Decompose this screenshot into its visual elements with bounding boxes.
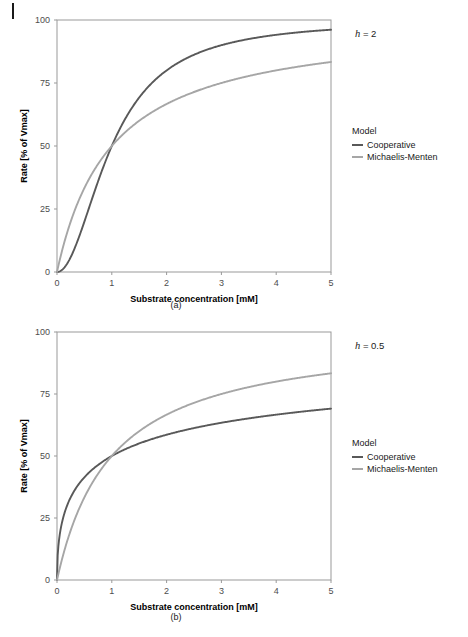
x-axis-title: Substrate concentration [mM] xyxy=(130,602,258,612)
x-tick-label: 5 xyxy=(328,586,333,596)
plot-area-b: 0255075100012345Substrate concentration … xyxy=(0,318,468,637)
figure-caption-a: (a) xyxy=(0,300,410,310)
y-tick-label: 50 xyxy=(40,451,50,461)
legend-key-michaelis-menten-b xyxy=(352,468,363,470)
y-axis-title: Rate [% of Vmax] xyxy=(19,109,29,183)
x-tick-label: 0 xyxy=(54,278,59,288)
facet-label-a: h = 2 xyxy=(355,28,376,39)
legend-key-cooperative-b xyxy=(352,456,363,458)
figure-panel-a: 0255075100012345Substrate concentration … xyxy=(0,0,468,320)
legend-item-cooperative-a[interactable]: Cooperative xyxy=(352,139,438,151)
x-tick-label: 2 xyxy=(164,278,169,288)
legend-item-cooperative-b[interactable]: Cooperative xyxy=(352,451,438,463)
y-tick-label: 100 xyxy=(35,15,50,25)
x-tick-label: 3 xyxy=(219,278,224,288)
legend-label-cooperative-b: Cooperative xyxy=(367,451,416,463)
x-tick-label: 4 xyxy=(274,586,279,596)
figure-panel-b: 0255075100012345Substrate concentration … xyxy=(0,318,468,637)
x-tick-label: 1 xyxy=(109,586,114,596)
legend-b: Model Cooperative Michaelis-Menten xyxy=(352,437,438,475)
legend-label-michaelis-menten-a: Michaelis-Menten xyxy=(367,151,438,163)
legend-item-michaelis-menten-b[interactable]: Michaelis-Menten xyxy=(352,463,438,475)
x-tick-label: 4 xyxy=(274,278,279,288)
legend-label-michaelis-menten-b: Michaelis-Menten xyxy=(367,463,438,475)
y-tick-label: 100 xyxy=(35,327,50,337)
figure-caption-b: (b) xyxy=(0,612,410,622)
x-tick-label: 5 xyxy=(328,278,333,288)
legend-key-cooperative-a xyxy=(352,144,363,146)
facet-label-value-a: = 2 xyxy=(360,28,376,39)
y-tick-label: 25 xyxy=(40,204,50,214)
legend-title-a: Model xyxy=(352,125,438,137)
panel-border xyxy=(57,332,331,580)
y-tick-label: 50 xyxy=(40,141,50,151)
facet-label-value-b: = 0.5 xyxy=(360,340,384,351)
y-tick-label: 0 xyxy=(45,267,50,277)
legend-key-michaelis-menten-a xyxy=(352,156,363,158)
x-tick-label: 0 xyxy=(54,586,59,596)
x-tick-label: 2 xyxy=(164,586,169,596)
legend-item-michaelis-menten-a[interactable]: Michaelis-Menten xyxy=(352,151,438,163)
legend-title-b: Model xyxy=(352,437,438,449)
y-tick-label: 0 xyxy=(45,575,50,585)
legend-a: Model Cooperative Michaelis-Menten xyxy=(352,125,438,163)
x-tick-label: 3 xyxy=(219,586,224,596)
y-tick-label: 75 xyxy=(40,389,50,399)
panel-border xyxy=(57,20,331,272)
y-axis-title: Rate [% of Vmax] xyxy=(19,419,29,493)
y-tick-label: 25 xyxy=(40,513,50,523)
y-tick-label: 75 xyxy=(40,78,50,88)
chart-svg-b: 0255075100012345Substrate concentration … xyxy=(0,318,468,637)
x-tick-label: 1 xyxy=(109,278,114,288)
facet-label-b: h = 0.5 xyxy=(355,340,384,351)
legend-label-cooperative-a: Cooperative xyxy=(367,139,416,151)
